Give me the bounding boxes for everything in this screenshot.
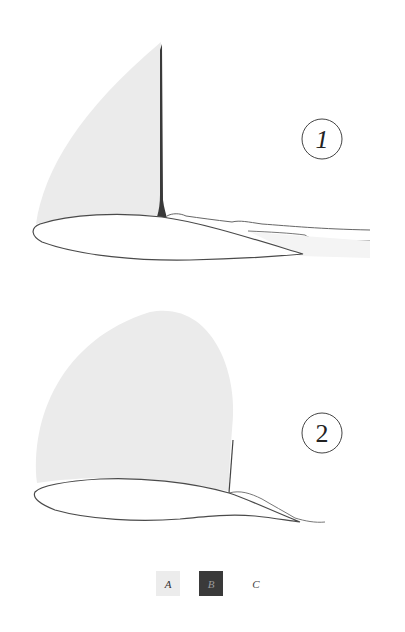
legend-label-b: B <box>208 578 215 590</box>
panel-2: 2 <box>34 311 342 523</box>
panel-1-label: 1 <box>316 125 329 154</box>
legend-item-c: C <box>244 571 268 596</box>
legend-label-a: A <box>165 578 172 590</box>
legend: A B C <box>0 571 405 597</box>
airfoil-flow-diagram: 1 2 <box>0 0 405 632</box>
legend-item-a: A <box>156 571 180 596</box>
legend-item-b: B <box>199 571 223 596</box>
panel-2-region-a <box>36 311 233 491</box>
panel-2-label: 2 <box>316 419 329 448</box>
panel-1-region-a <box>36 42 161 224</box>
panel-1: 1 <box>33 42 370 260</box>
legend-label-c: C <box>252 578 259 590</box>
panel-2-airfoil <box>34 479 300 522</box>
